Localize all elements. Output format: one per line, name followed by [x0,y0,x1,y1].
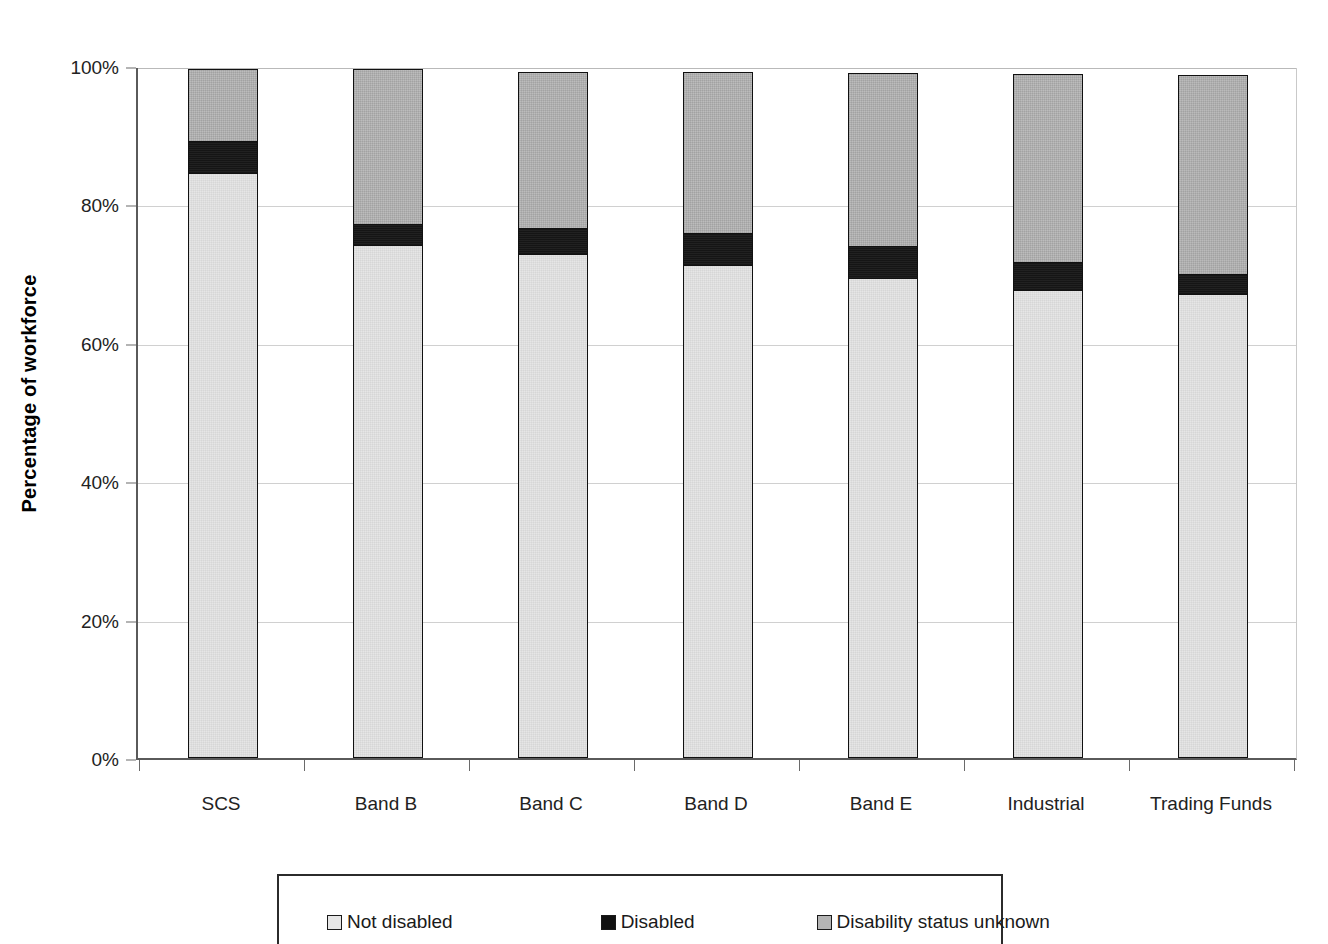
bar-segment-not-disabled[interactable] [518,254,588,758]
x-axis-tick-mark [139,760,140,771]
legend-item-label: Disabled [621,911,695,933]
bar-segment-disabled[interactable] [353,224,423,247]
bar-segment-disability-status-unknown[interactable] [683,72,753,235]
bar-segment-disabled[interactable] [1178,274,1248,296]
x-axis-tick-mark [634,760,635,771]
bar-segment-disability-status-unknown[interactable] [353,69,423,225]
bar-segment-disability-status-unknown[interactable] [1013,74,1083,264]
bar-band-e[interactable] [848,74,918,758]
y-axis-tick-label: 60% [9,334,119,356]
x-axis-tick-mark [304,760,305,771]
bar-segment-disabled[interactable] [188,141,258,175]
x-axis-tick-mark [1294,760,1295,771]
bar-segment-disabled[interactable] [848,246,918,279]
x-axis-tick-mark [469,760,470,771]
gridline [138,68,1296,69]
legend-item[interactable]: Disability status unknown [817,911,1050,933]
y-axis-tick-mark [126,206,136,207]
bar-band-d[interactable] [683,73,753,758]
chart-legend: Not disabledDisabledDisability status un… [277,874,1003,944]
swatch-unknown-icon [817,915,832,930]
y-axis-tick-mark [126,760,136,761]
bar-segment-not-disabled[interactable] [848,278,918,758]
x-axis-tick-mark [799,760,800,771]
x-axis-tick-mark [1129,760,1130,771]
bar-segment-disability-status-unknown[interactable] [848,73,918,248]
bar-segment-disability-status-unknown[interactable] [1178,75,1248,275]
y-axis-tick-label: 80% [9,195,119,217]
swatch-not-disabled-icon [327,915,342,930]
bar-segment-disability-status-unknown[interactable] [188,69,258,142]
plot-area [136,68,1297,760]
y-axis-tick-mark [126,621,136,622]
bar-trading-funds[interactable] [1178,77,1248,758]
legend-item[interactable]: Disabled [601,911,695,933]
x-axis-tick-mark [964,760,965,771]
bar-industrial[interactable] [1013,75,1083,758]
bar-segment-not-disabled[interactable] [188,173,258,758]
y-axis-tick-mark [126,68,136,69]
bar-segment-disabled[interactable] [518,228,588,256]
bar-band-c[interactable] [518,73,588,758]
swatch-disabled-icon [601,915,616,930]
y-axis-tick-label: 40% [9,472,119,494]
y-axis-tick-mark [126,344,136,345]
legend-item-label: Not disabled [347,911,453,933]
bar-segment-not-disabled[interactable] [1013,290,1083,758]
y-axis-tick-mark [126,483,136,484]
y-axis-title: Percentage of workforce [18,229,41,559]
y-axis-tick-label: 100% [9,57,119,79]
bar-segment-disabled[interactable] [683,233,753,267]
legend-item-label: Disability status unknown [837,911,1050,933]
y-axis-tick-label: 20% [9,611,119,633]
legend-item[interactable]: Not disabled [327,911,453,933]
bar-segment-not-disabled[interactable] [353,245,423,758]
bar-segment-disability-status-unknown[interactable] [518,72,588,230]
bar-segment-not-disabled[interactable] [683,265,753,758]
bar-scs[interactable] [188,71,258,758]
y-axis-tick-label: 0% [9,749,119,771]
x-axis-tick-label: Trading Funds [1111,793,1311,815]
bar-segment-not-disabled[interactable] [1178,294,1248,758]
bar-segment-disabled[interactable] [1013,262,1083,292]
bar-band-b[interactable] [353,71,423,758]
